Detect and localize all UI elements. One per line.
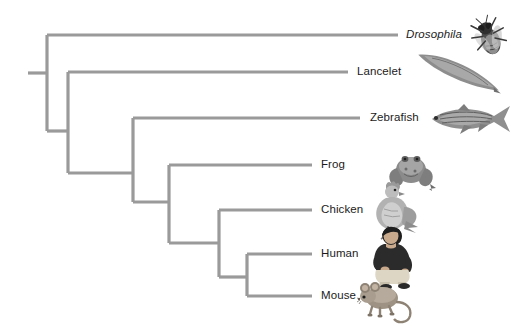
taxon-label-drosophila: Drosophila [406,29,462,41]
taxon-label-chicken: Chicken [321,204,363,216]
phylogenetic-tree-figure: Drosophila Lancelet Zebrafish Frog Chick… [0,0,520,331]
taxon-label-human: Human [321,248,359,260]
taxon-label-zebrafish: Zebrafish [370,112,419,124]
taxon-label-lancelet: Lancelet [357,66,401,78]
taxon-label-mouse: Mouse [321,290,356,302]
tree-branch-graphic [0,0,520,331]
taxon-label-frog: Frog [321,159,345,171]
